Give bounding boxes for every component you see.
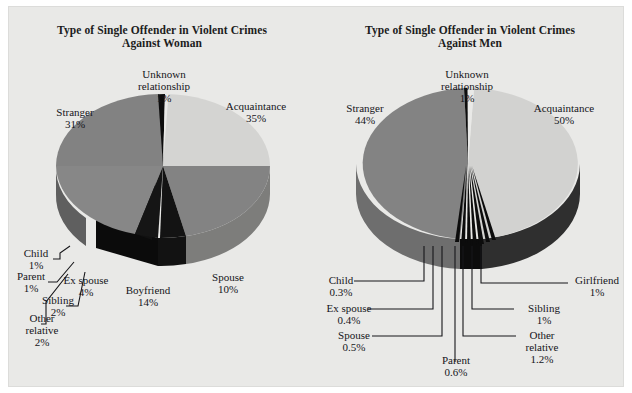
label-acquaintance-women-name: Acquaintance [226,100,286,112]
label-acquaintance-men-name: Acquaintance [534,102,594,114]
page-root: Type of Single Offender in Violent Crime… [0,0,632,393]
label-boyfriend-women-name: Boyfriend [126,284,171,296]
label-acquaintance-women: Acquaintance 35% [204,100,308,124]
label-ex-spouse-men-pct: 0.4% [316,314,382,326]
label-girlfriend-men-name: Girlfriend [575,274,619,286]
pie-slice-spouse-m [467,166,471,245]
label-parent-men-pct: 0.6% [428,366,484,378]
label-child-men-name: Child [329,274,353,286]
label-stranger-men: Stranger 44% [326,102,404,126]
label-girlfriend-men: Girlfriend 1% [566,274,628,298]
label-unknown-relationship-men-pct: 1% [421,92,513,104]
label-stranger-women-pct: 31% [36,118,114,130]
label-other-relative-women-name: Other [29,312,54,324]
label-other-relative-men: Other relative 1.2% [514,329,570,366]
label-sibling-men-pct: 1% [516,314,572,326]
label-other-relative-men-pct: 1.2% [514,353,570,365]
label-unknown-relationship-women-name: Unknown [142,68,185,80]
label-child-women-name: Child [24,247,48,259]
label-other-relative-women: Other relative 2% [14,312,70,349]
label-sibling-men: Sibling 1% [516,302,572,326]
label-ex-spouse-men: Ex spouse 0.4% [316,302,382,326]
label-stranger-women: Stranger 31% [36,106,114,130]
figure-panel: Type of Single Offender in Violent Crime… [8,6,624,387]
label-unknown-relationship-women-pct: 1% [118,92,210,104]
label-stranger-women-name: Stranger [56,106,93,118]
label-stranger-men-pct: 44% [326,114,404,126]
label-boyfriend-women-pct: 14% [112,296,184,308]
label-other-relative-men-name: Other [529,329,554,341]
label-girlfriend-men-pct: 1% [566,286,628,298]
label-child-women: Child 1% [14,247,58,271]
label-ex-spouse-men-name: Ex spouse [327,302,372,314]
label-unknown-relationship-women: Unknown relationship 1% [118,68,210,105]
label-unknown-relationship-women-name2: relationship [118,80,210,92]
label-spouse-men: Spouse 0.5% [326,329,382,353]
label-acquaintance-men-pct: 50% [512,114,616,126]
label-unknown-relationship-men: Unknown relationship 1% [421,68,513,105]
label-parent-men: Parent 0.6% [428,354,484,378]
pie-chart-men: Type of Single Offender in Violent Crime… [316,6,624,387]
pie-side-spouse-w [158,236,186,266]
label-child-men-pct: 0.3% [318,286,364,298]
label-other-relative-men-name2: relative [514,341,570,353]
label-parent-women-name: Parent [17,270,45,282]
label-spouse-women-name: Spouse [212,271,244,283]
label-other-relative-women-pct: 2% [14,336,70,348]
label-parent-women: Parent 1% [8,270,54,294]
label-stranger-men-name: Stranger [346,102,383,114]
label-spouse-men-name: Spouse [338,329,370,341]
label-spouse-men-pct: 0.5% [326,341,382,353]
label-acquaintance-women-pct: 35% [204,112,308,124]
label-parent-women-pct: 1% [8,282,54,294]
label-spouse-women-pct: 10% [196,283,260,295]
label-other-relative-women-name2: relative [14,324,70,336]
label-unknown-relationship-men-name: Unknown [445,68,488,80]
label-ex-spouse-women-name: Ex spouse [64,274,109,286]
label-sibling-men-name: Sibling [528,302,560,314]
label-spouse-women: Spouse 10% [196,271,260,295]
label-parent-men-name: Parent [442,354,470,366]
label-unknown-relationship-men-name2: relationship [421,80,513,92]
pie-chart-women: Type of Single Offender in Violent Crime… [8,6,316,387]
label-acquaintance-men: Acquaintance 50% [512,102,616,126]
label-child-men: Child 0.3% [318,274,364,298]
label-boyfriend-women: Boyfriend 14% [112,284,184,308]
